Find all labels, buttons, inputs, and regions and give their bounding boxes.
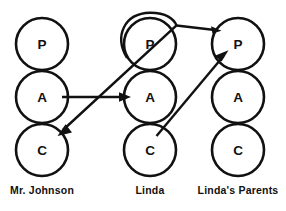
adult-letter: A	[37, 90, 47, 105]
transaction-parents-top-connector[interactable]	[177, 26, 222, 34]
adult-letter: A	[145, 90, 155, 105]
ego-state-mr-johnson-adult[interactable]: A	[16, 71, 68, 123]
ego-state-mr-johnson-parent[interactable]: P	[16, 18, 68, 70]
ego-state-lindas-parents-adult[interactable]: A	[212, 71, 264, 123]
column-linda: P A C	[124, 18, 176, 176]
column-lindas-parents: P A C	[212, 18, 264, 176]
parent-letter: P	[37, 37, 46, 52]
ta-diagram-root: P A C P A C	[0, 0, 286, 211]
child-letter: C	[145, 143, 155, 158]
column-label-linda: Linda	[136, 184, 165, 196]
parents-top-connector-line[interactable]	[177, 26, 218, 31]
column-label-lindas-parents: Linda's Parents	[198, 184, 279, 196]
ego-state-lindas-parents-child[interactable]: C	[212, 124, 264, 176]
ego-state-linda-child[interactable]: C	[124, 124, 176, 176]
column-mr-johnson: P A C	[16, 18, 68, 176]
adult-letter: A	[233, 90, 243, 105]
parent-letter: P	[233, 37, 242, 52]
ta-diagram-canvas: P A C P A C	[0, 0, 286, 211]
column-labels: Mr. Johnson Linda Linda's Parents	[10, 184, 278, 196]
child-letter: C	[233, 143, 243, 158]
child-letter: C	[37, 143, 47, 158]
ego-state-mr-johnson-child[interactable]: C	[16, 124, 68, 176]
column-label-mr-johnson: Mr. Johnson	[10, 184, 74, 196]
ego-state-linda-adult[interactable]: A	[124, 71, 176, 123]
ego-state-linda-parent[interactable]: P	[124, 18, 176, 70]
